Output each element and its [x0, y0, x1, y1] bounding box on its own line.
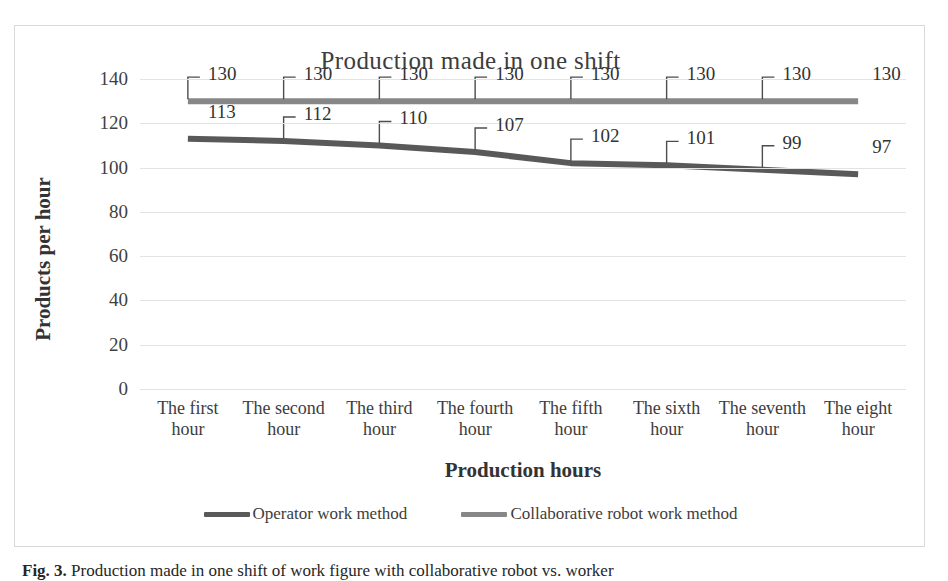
data-label-leader-line — [667, 141, 679, 163]
x-axis-category-word: hour — [140, 419, 236, 440]
data-label-leader-line — [188, 77, 200, 99]
data-label: 130 — [495, 63, 524, 85]
y-axis-tick-label: 0 — [119, 378, 129, 400]
data-label: 130 — [872, 63, 901, 85]
gridline — [140, 168, 906, 169]
figure-caption-number: Fig. 3. — [22, 561, 67, 580]
y-axis-title: Products per hour — [31, 177, 56, 341]
x-axis-category-word: The sixth — [619, 398, 715, 419]
data-label: 130 — [208, 63, 237, 85]
x-axis-category-label: The sixthhour — [619, 398, 715, 440]
x-axis-category-word: The first — [140, 398, 236, 419]
x-axis-title: Production hours — [140, 458, 906, 483]
chart-container: Production made in one shift Products pe… — [14, 25, 925, 547]
data-label: 130 — [591, 63, 620, 85]
y-axis-tick-label: 60 — [109, 245, 128, 267]
legend-item[interactable]: Collaborative robot work method — [461, 504, 737, 524]
legend-item[interactable]: Operator work method — [204, 504, 408, 524]
legend-label: Collaborative robot work method — [510, 504, 737, 524]
x-axis-category-word: The fifth — [523, 398, 619, 419]
x-axis-category-labels: The firsthourThe secondhourThe thirdhour… — [140, 398, 906, 440]
gridline — [140, 212, 906, 213]
data-label: 130 — [782, 63, 811, 85]
x-axis-category-word: hour — [332, 419, 428, 440]
x-axis-category-word: hour — [523, 419, 619, 440]
figure-caption: Fig. 3. Production made in one shift of … — [22, 560, 928, 581]
series-line — [188, 139, 858, 174]
x-axis-category-label: The secondhour — [236, 398, 332, 440]
data-label: 130 — [304, 63, 333, 85]
figure-caption-text: Production made in one shift of work fig… — [71, 561, 613, 580]
x-axis-category-word: The eight — [810, 398, 906, 419]
chart-legend: Operator work methodCollaborative robot … — [15, 504, 926, 524]
x-axis-category-label: The fourthhour — [427, 398, 523, 440]
x-axis-category-word: The third — [332, 398, 428, 419]
x-axis-category-word: The seventh — [715, 398, 811, 419]
data-label-leader-line — [284, 77, 296, 99]
data-label: 102 — [591, 125, 620, 147]
x-axis-category-word: hour — [810, 419, 906, 440]
x-axis-category-word: hour — [715, 419, 811, 440]
plot-area: 1401201008060402001131121101071021019997… — [140, 79, 906, 389]
data-label: 97 — [872, 136, 891, 158]
legend-line-swatch-icon — [204, 512, 250, 517]
y-axis-tick-label: 40 — [109, 289, 128, 311]
x-axis-category-word: The second — [236, 398, 332, 419]
x-axis-category-word: hour — [619, 419, 715, 440]
data-label: 130 — [687, 63, 716, 85]
y-axis-tick-label: 80 — [109, 201, 128, 223]
x-axis-category-label: The fifthhour — [523, 398, 619, 440]
data-label: 101 — [687, 127, 716, 149]
data-label: 130 — [399, 63, 428, 85]
gridline — [140, 256, 906, 257]
data-label-leader-line — [379, 77, 391, 99]
data-label-leader-line — [762, 77, 774, 99]
gridline — [140, 389, 906, 390]
data-label-leader-line — [475, 128, 487, 150]
data-label-leader-line — [762, 146, 774, 168]
data-label-leader-line — [667, 77, 679, 99]
data-label: 99 — [782, 132, 801, 154]
x-axis-category-label: The thirdhour — [332, 398, 428, 440]
y-axis-tick-label: 120 — [100, 112, 129, 134]
y-axis-tick-label: 100 — [100, 157, 129, 179]
data-label-leader-line — [475, 77, 487, 99]
gridline — [140, 300, 906, 301]
x-axis-category-word: hour — [427, 419, 523, 440]
y-axis-tick-label: 20 — [109, 334, 128, 356]
data-label-leader-line — [284, 117, 296, 139]
data-label-leader-line — [571, 139, 583, 161]
gridline — [140, 345, 906, 346]
data-label: 113 — [208, 101, 236, 123]
x-axis-category-word: hour — [236, 419, 332, 440]
x-axis-category-label: The eighthour — [810, 398, 906, 440]
data-label: 112 — [304, 103, 332, 125]
data-label: 110 — [399, 107, 427, 129]
legend-label: Operator work method — [253, 504, 408, 524]
data-label-leader-line — [379, 121, 391, 143]
x-axis-category-word: The fourth — [427, 398, 523, 419]
data-label: 107 — [495, 114, 524, 136]
y-axis-tick-label: 140 — [100, 68, 129, 90]
x-axis-category-label: The firsthour — [140, 398, 236, 440]
x-axis-category-label: The seventhhour — [715, 398, 811, 440]
legend-line-swatch-icon — [461, 512, 507, 517]
data-label-leader-line — [571, 77, 583, 99]
